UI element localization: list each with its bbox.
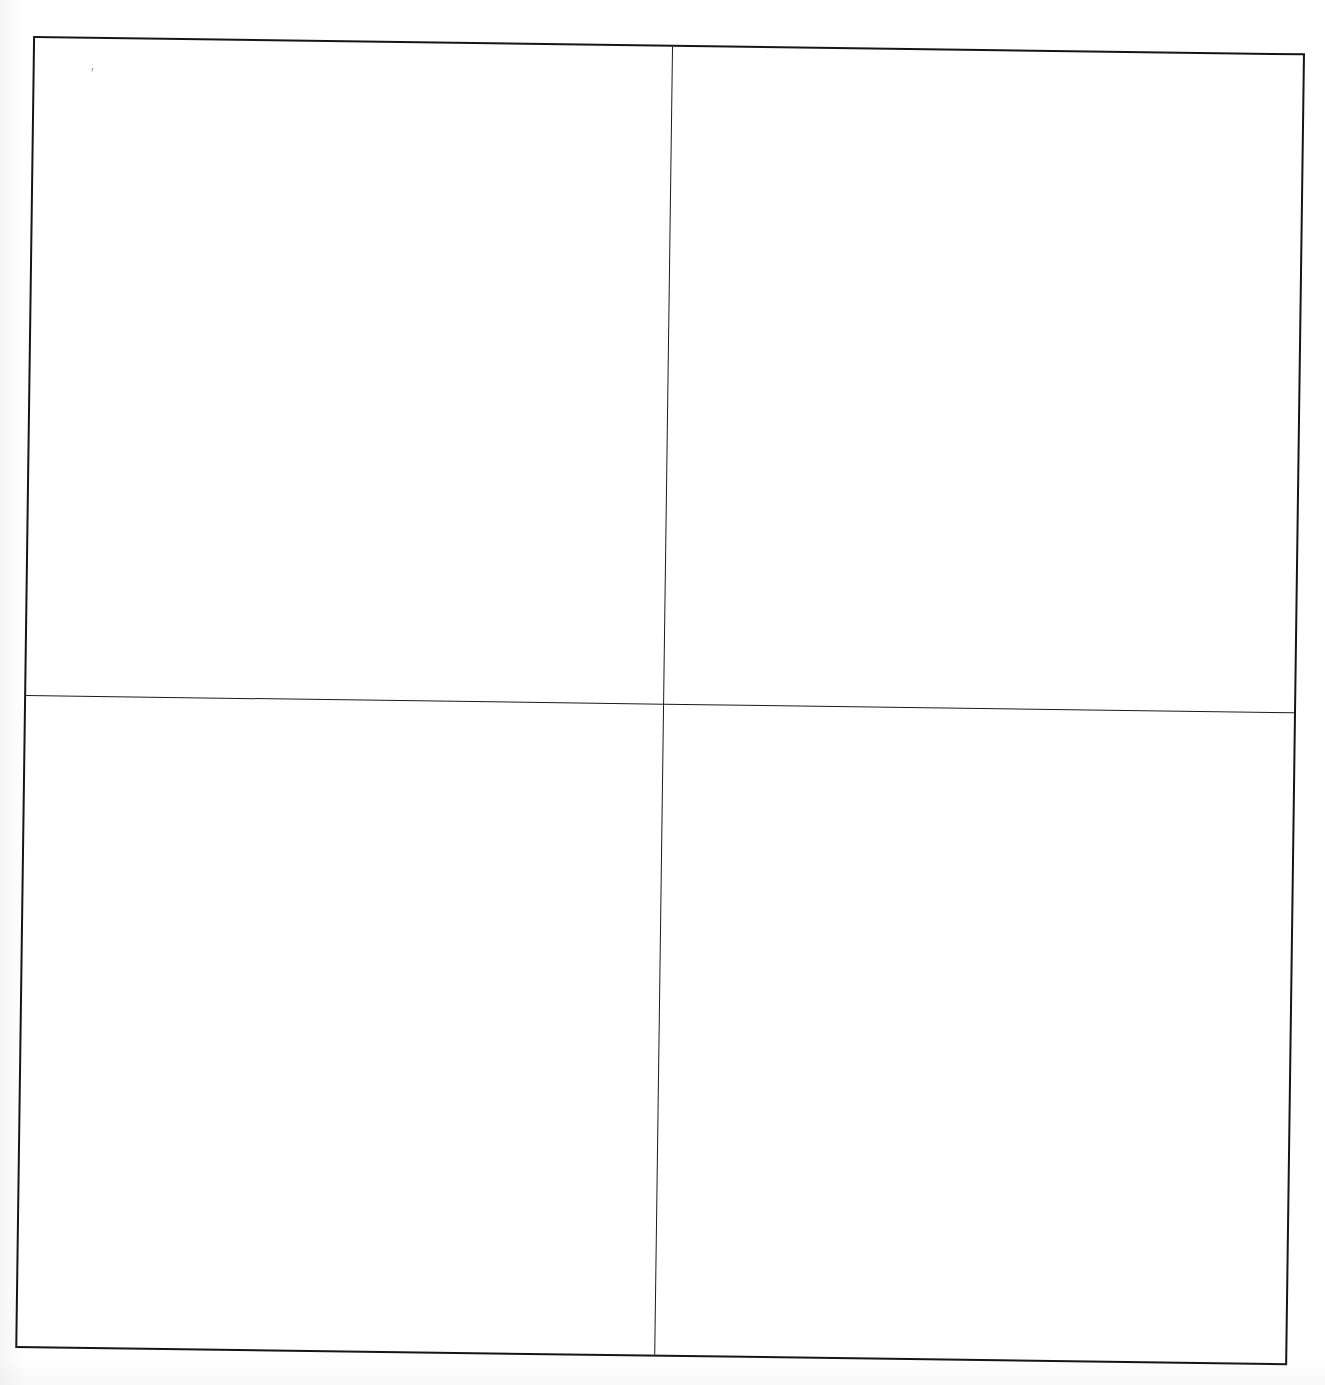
grid-cell-row1-col1[interactable]: ' bbox=[26, 38, 673, 705]
grid-cell-row2-col1-text bbox=[17, 696, 663, 1355]
scanned-page: ' bbox=[0, 0, 1325, 1385]
empty-2x2-grid: ' bbox=[15, 36, 1305, 1365]
grid-cell-row2-col2-text bbox=[655, 705, 1294, 1364]
grid-cell-row1-col1-text bbox=[26, 38, 672, 704]
grid-cell-row2-col2[interactable] bbox=[655, 705, 1294, 1364]
grid-cell-row1-col2[interactable] bbox=[664, 47, 1303, 714]
grid-cell-row2-col1[interactable] bbox=[17, 696, 664, 1355]
grid-cell-row1-col2-text bbox=[664, 47, 1303, 713]
scan-skew-wrapper: ' bbox=[0, 0, 1325, 1385]
